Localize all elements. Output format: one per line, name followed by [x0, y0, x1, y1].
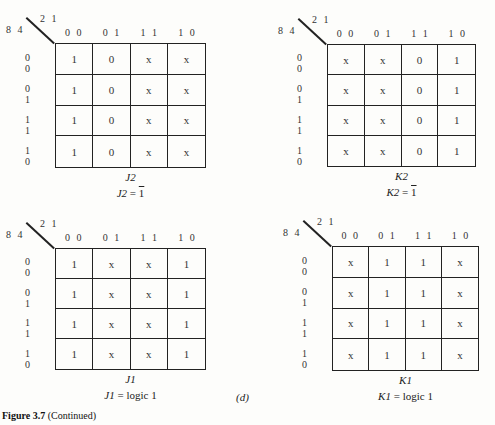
equation-value: 1	[411, 186, 417, 198]
kmap-cell: 0	[402, 45, 439, 75]
kmap-cell: x	[365, 106, 402, 136]
kmap-cell: x	[131, 279, 168, 309]
row-variable-label: 8 4	[283, 227, 302, 238]
kmap-cell: 1	[56, 309, 93, 339]
kmap-cell: x	[168, 44, 205, 75]
column-header: 0 1	[103, 27, 122, 38]
kmap-cell: x	[93, 279, 130, 309]
kmap-cell: 1	[56, 279, 93, 309]
kmap-cell: 1	[56, 339, 93, 369]
row-header: 0 0	[25, 256, 32, 278]
column-header: 1 0	[178, 27, 197, 38]
kmap-equation: J1 = logic 1	[55, 389, 206, 401]
kmap-cell: x	[131, 249, 168, 279]
kmap-grid: 1xx11xx11xx11xx1	[55, 248, 206, 370]
column-variable-label: 2 1	[40, 13, 59, 24]
kmap-cell: 1	[406, 339, 442, 370]
row-header: 0 1	[297, 83, 304, 105]
kmap-cell: 1	[438, 75, 475, 105]
kmap-cell: x	[131, 136, 168, 167]
kmap-cell: x	[442, 278, 478, 309]
equation-value: 1	[139, 187, 145, 199]
kmap-cell: x	[93, 309, 130, 339]
kmap-grid: x11xx11xx11xx11x	[332, 246, 479, 371]
kmap-cell: x	[93, 339, 130, 369]
row-header: 1 1	[25, 114, 32, 136]
kmap-cell: x	[131, 309, 168, 339]
figure-sublabel: (d)	[236, 391, 249, 403]
column-variable-label: 2 1	[40, 218, 59, 229]
column-header: 1 1	[140, 232, 159, 243]
column-header: 0 1	[103, 232, 122, 243]
column-header: 1 1	[140, 27, 159, 38]
kmap-cell: x	[442, 339, 478, 370]
row-header: 1 1	[297, 114, 304, 136]
kmap-cell: x	[442, 247, 478, 278]
kmap-cell: x	[131, 106, 168, 137]
kmap-cell: x	[442, 309, 478, 340]
kmap-grid: xx01xx01xx01xx01	[327, 44, 476, 167]
equation-value: logic 1	[403, 390, 433, 402]
kmap-cell: x	[168, 106, 205, 137]
row-variable-label: 8 4	[6, 24, 25, 35]
kmap-equation: K1 = logic 1	[332, 390, 479, 402]
column-header: 0 0	[341, 230, 360, 241]
equation-variable: K2	[386, 186, 399, 198]
row-header: 1 1	[25, 317, 32, 339]
kmap-cell: x	[131, 75, 168, 106]
kmap-cell: x	[93, 249, 130, 279]
kmap-cell: 1	[438, 106, 475, 136]
equation-sign: =	[127, 187, 139, 199]
kmap-cell: 1	[168, 249, 205, 279]
row-header: 0 0	[25, 52, 32, 74]
column-header: 1 0	[178, 232, 197, 243]
kmap-cell: 0	[93, 136, 130, 167]
row-header: 0 1	[25, 83, 32, 105]
kmap-cell: x	[328, 136, 365, 166]
column-header: 0 0	[65, 27, 84, 38]
column-header: 0 0	[65, 232, 84, 243]
column-variable-label: 2 1	[317, 216, 336, 227]
equation-variable: J1	[104, 389, 114, 401]
column-header: 1 1	[415, 230, 434, 241]
kmap-cell: x	[328, 75, 365, 105]
kmap-grid: 10xx10xx10xx10xx	[55, 43, 206, 168]
kmap-cell: 1	[369, 278, 405, 309]
kmap-cell: 1	[369, 339, 405, 370]
kmap-title: K2	[327, 170, 476, 182]
row-header: 1 0	[297, 145, 304, 167]
kmap-cell: x	[168, 136, 205, 167]
kmap-cell: 1	[406, 247, 442, 278]
kmap-cell: x	[333, 309, 369, 340]
row-variable-label: 8 4	[6, 229, 25, 240]
kmap-cell: x	[131, 339, 168, 369]
caption-number: Figure 3.7	[2, 410, 45, 421]
row-header: 0 1	[302, 286, 309, 308]
column-header: 1 0	[452, 230, 471, 241]
row-header: 0 0	[302, 255, 309, 277]
kmap-cell: x	[168, 75, 205, 106]
kmap-cell: x	[365, 75, 402, 105]
row-header: 0 1	[25, 287, 32, 309]
row-variable-label: 8 4	[278, 25, 297, 36]
kmap-title: J2	[55, 171, 206, 183]
kmap-cell: 1	[369, 309, 405, 340]
equation-sign: =	[115, 389, 127, 401]
kmap-cell: x	[131, 44, 168, 75]
caption-text: (Continued)	[45, 410, 96, 421]
kmap-cell: 0	[93, 106, 130, 137]
row-header: 1 0	[25, 145, 32, 167]
kmap-equation: J2 = 1	[55, 187, 206, 199]
kmap-cell: x	[333, 339, 369, 370]
kmap-cell: 0	[402, 136, 439, 166]
kmap-cell: 1	[168, 279, 205, 309]
column-variable-label: 2 1	[312, 14, 331, 25]
kmap-cell: 0	[93, 44, 130, 75]
column-header: 1 1	[411, 28, 430, 39]
kmap-cell: x	[333, 247, 369, 278]
column-header: 0 0	[337, 28, 356, 39]
kmap-title: K1	[332, 374, 479, 386]
row-header: 0 0	[297, 52, 304, 74]
column-header: 0 1	[374, 28, 393, 39]
kmap-cell: x	[328, 106, 365, 136]
